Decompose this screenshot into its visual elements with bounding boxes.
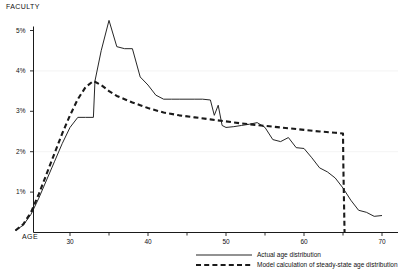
axis-lines (34, 27, 399, 233)
tick-marks (30, 31, 382, 237)
y-tick-label-2: 2% (10, 148, 26, 155)
y-tick-label-1: 1% (10, 188, 26, 195)
x-tick-label-50: 50 (216, 238, 236, 245)
series-line-1 (15, 81, 344, 233)
y-tick-label-4: 4% (10, 67, 26, 74)
series-paths (15, 20, 382, 232)
x-tick-label-60: 60 (294, 238, 314, 245)
legend-label-1: Model calculation of steady-state age di… (257, 261, 398, 268)
series-line-0 (15, 20, 382, 230)
x-tick-label-40: 40 (138, 238, 158, 245)
legend-label-0: Actual age distribution (257, 251, 321, 258)
x-tick-label-30: 30 (60, 238, 80, 245)
y-tick-label-5: 5% (10, 27, 26, 34)
legend-swatches (196, 255, 252, 265)
chart-plot-area (0, 0, 406, 276)
faculty-age-distribution-chart: FACULTY AGE 1%2%3%4%5%3040506070 Actual … (0, 0, 406, 276)
x-tick-label-70: 70 (372, 238, 392, 245)
y-tick-label-3: 3% (10, 107, 26, 114)
